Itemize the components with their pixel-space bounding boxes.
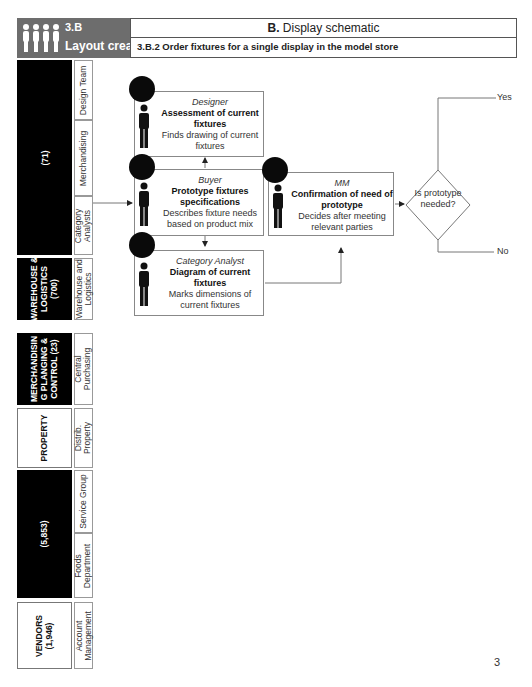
task-name: Assessment of current fixtures xyxy=(157,108,263,130)
person-icon xyxy=(137,262,151,308)
decision-yes-label: Yes xyxy=(497,92,512,102)
task-name: Confirmation of need of prototype xyxy=(291,189,393,211)
task-role: MM xyxy=(291,178,393,189)
task-name: Prototype fixtures specifications xyxy=(157,186,263,208)
task-desc: Decides after meeting relevant parties xyxy=(291,211,393,233)
task-diagram-current-fixtures[interactable]: Category Analyst Diagram of current fixt… xyxy=(134,250,264,316)
task-role: Designer xyxy=(157,97,263,108)
page-number: 3 xyxy=(494,656,500,668)
decision-question: Is prototype needed? xyxy=(406,188,470,210)
decision-no-label: No xyxy=(497,246,509,256)
task-desc: Describes fixture needs based on product… xyxy=(157,208,263,230)
person-icon xyxy=(271,184,285,230)
task-prototype-fixtures-specifications[interactable]: Buyer Prototype fixtures specifications … xyxy=(134,169,264,236)
task-name: Diagram of current fixtures xyxy=(157,267,263,289)
role-circle-icon xyxy=(129,232,155,258)
person-icon xyxy=(137,104,151,150)
flow-connectors xyxy=(0,0,532,687)
task-desc: Marks dimensions of current fixtures xyxy=(157,289,263,311)
task-role: Buyer xyxy=(157,175,263,186)
person-icon xyxy=(137,182,151,228)
role-circle-icon xyxy=(129,76,155,102)
role-circle-icon xyxy=(129,154,155,180)
task-confirmation-need-prototype[interactable]: MM Confirmation of need of prototype Dec… xyxy=(268,172,394,236)
task-desc: Finds drawing of current fixtures xyxy=(157,130,263,152)
task-assessment-current-fixtures[interactable]: Designer Assessment of current fixtures … xyxy=(134,91,264,157)
role-circle-icon xyxy=(262,157,288,183)
task-role: Category Analyst xyxy=(157,256,263,267)
